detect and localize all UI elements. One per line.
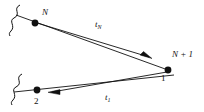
network-cycle-diagram: N tN N + 1 1 2 t1 <box>0 0 204 112</box>
node-dot-2 <box>34 87 41 94</box>
edge-label-tN: tN <box>95 20 102 30</box>
break-mark-bottom-icon <box>11 74 22 105</box>
arrowhead-t1-icon <box>48 90 60 95</box>
edge-label-t1: t1 <box>105 93 111 103</box>
edge-label-t1-subscript: 1 <box>108 97 111 103</box>
break-mark-top-icon <box>9 5 20 36</box>
node-label-N-plus-1: N + 1 <box>172 50 193 59</box>
link-line-tN <box>37 23 149 57</box>
port-label-1: 1 <box>161 74 166 83</box>
node-label-2: 2 <box>34 97 39 106</box>
arrowhead-tN-icon <box>140 52 152 59</box>
node-dot-N <box>32 20 39 27</box>
link-line-t1 <box>52 72 167 92</box>
node-dot-N-plus-1 <box>165 67 172 74</box>
node-label-N: N <box>42 8 48 17</box>
edge-label-tN-subscript: N <box>98 24 102 30</box>
